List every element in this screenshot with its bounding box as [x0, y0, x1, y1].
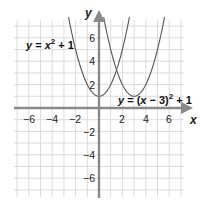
chart: x y −6 −4 −2 2 4 6 6 4 2 −2 −4 −6 y = x2…: [0, 0, 208, 206]
eq1-rest: + 1: [55, 39, 74, 51]
eq1-equals: =: [32, 39, 45, 51]
x-tick-label: −6: [23, 113, 35, 125]
x-tick-label: 4: [143, 113, 149, 125]
x-tick-label: −2: [69, 113, 81, 125]
y-tick-label: −4: [83, 149, 95, 161]
y-tick-label: −2: [83, 126, 95, 138]
x-tick-label: 6: [166, 113, 172, 125]
x-axis-label: x: [189, 113, 198, 127]
equation-label-1: y = x2 + 1: [25, 37, 74, 51]
y-tick-label: 6: [89, 32, 95, 44]
y-tick-label: 2: [89, 79, 95, 91]
x-tick-label: −4: [46, 113, 58, 125]
equation-label-2: y = (x − 3)2 + 1: [117, 92, 192, 106]
y-axis-label: y: [84, 6, 93, 20]
y-tick-label: 4: [89, 55, 95, 67]
y-tick-label: −6: [83, 172, 95, 184]
x-tick-labels: −6 −4 −2 2 4 6: [23, 113, 172, 125]
y-axis-arrow-icon: [93, 10, 105, 22]
x-tick-label: 2: [119, 113, 125, 125]
eq2-rest: + 1: [173, 94, 192, 106]
eq2-equals: = (: [124, 94, 141, 106]
eq2-mid: − 3): [146, 94, 169, 106]
